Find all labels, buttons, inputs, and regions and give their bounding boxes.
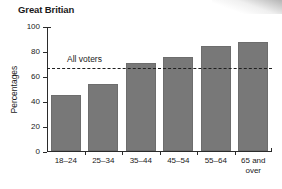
y-tick: 0 bbox=[43, 152, 47, 153]
bar bbox=[163, 57, 193, 151]
bar-series: 18–2425–3435–4445–5455–6465 and over bbox=[47, 27, 272, 151]
chart-title: Great Britian bbox=[18, 4, 74, 16]
scan-artifact bbox=[212, 0, 282, 14]
bar-group: 35–44 bbox=[122, 27, 160, 151]
x-axis-label: 25–34 bbox=[92, 156, 114, 166]
x-tick bbox=[122, 151, 123, 155]
bar-group: 18–24 bbox=[47, 27, 85, 151]
x-axis-label: 55–64 bbox=[205, 156, 227, 166]
x-axis-label: 18–24 bbox=[55, 156, 77, 166]
y-tick-label: 40 bbox=[31, 96, 40, 107]
plot-area: 020406080100 18–2425–3435–4445–5455–6465… bbox=[47, 27, 272, 152]
all-voters-label: All voters bbox=[67, 54, 102, 65]
bar-group: 65 and over bbox=[235, 27, 273, 151]
y-axis-title: Percentages bbox=[8, 27, 20, 152]
bar-group: 45–54 bbox=[160, 27, 198, 151]
y-tick-label: 80 bbox=[31, 46, 40, 57]
y-tick-label: 60 bbox=[31, 71, 40, 82]
x-tick bbox=[85, 151, 86, 155]
bar bbox=[238, 42, 268, 151]
x-axis-label: 65 and over bbox=[236, 156, 270, 176]
bar bbox=[88, 84, 118, 151]
x-tick bbox=[235, 151, 236, 155]
bar bbox=[51, 95, 81, 151]
y-tick-label: 0 bbox=[36, 146, 40, 157]
x-tick bbox=[160, 151, 161, 155]
x-tick bbox=[197, 151, 198, 155]
bar bbox=[126, 63, 156, 151]
all-voters-reference-line bbox=[47, 68, 272, 69]
bar-group: 25–34 bbox=[85, 27, 123, 151]
x-axis-label: 45–54 bbox=[167, 156, 189, 166]
y-tick-label: 100 bbox=[27, 21, 40, 32]
bar-group: 55–64 bbox=[197, 27, 235, 151]
x-axis-label: 35–44 bbox=[130, 156, 152, 166]
bar bbox=[201, 46, 231, 151]
y-tick-label: 20 bbox=[31, 121, 40, 132]
